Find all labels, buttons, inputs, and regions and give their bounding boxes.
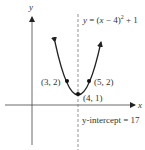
vertex-point <box>76 92 80 96</box>
y-intercept-label: y-intercept = 17 <box>82 115 140 125</box>
parabola-diagram: y x (3, 2) (5, 2) (4, 1) y = (x − 4)2 + … <box>0 0 145 150</box>
point-3-2 <box>65 79 69 83</box>
equation-label: y = (x − 4)2 + 1 <box>82 14 138 25</box>
x-axis-label: x <box>137 100 142 110</box>
vertex-label: (4, 1) <box>83 93 103 103</box>
point-5-2 <box>87 79 91 83</box>
point-label-5-2: (5, 2) <box>94 77 114 87</box>
y-axis-label: y <box>28 2 33 12</box>
point-label-3-2: (3, 2) <box>41 77 61 87</box>
